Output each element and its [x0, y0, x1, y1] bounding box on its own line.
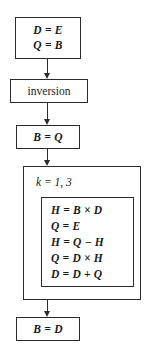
statement-line: B = D — [33, 322, 62, 337]
statement-line: H = Q − H — [51, 234, 104, 250]
statement-line: H = B × D — [51, 202, 102, 218]
loop-body-statements: H = B × D Q = E H = Q − H Q = D × H D = … — [51, 202, 104, 282]
statement-line: B = Q — [33, 130, 62, 145]
process-label: inversion — [28, 84, 71, 98]
statement-line: Q = B — [33, 38, 62, 53]
statement-line: D = E — [33, 23, 62, 38]
statement-line: Q = D × H — [51, 250, 103, 266]
statement-line: D = D + Q — [51, 266, 102, 282]
connector-init-to-inversion — [47, 59, 48, 73]
connector-inversion-to-bq — [47, 103, 48, 119]
flowchart-canvas: D = E Q = B inversion B = Q k = 1, 3 H =… — [0, 0, 150, 356]
flowchart-node-bq: B = Q — [16, 125, 80, 149]
flowchart-node-final: B = D — [16, 317, 80, 341]
flowchart-node-inversion: inversion — [10, 79, 88, 103]
flowchart-node-init: D = E Q = B — [15, 17, 81, 59]
loop-header-label: k = 1, 3 — [36, 175, 72, 189]
connector-bq-to-loop — [47, 149, 48, 160]
statement-line: Q = E — [51, 218, 80, 234]
connector-loop-to-final — [47, 300, 48, 311]
flowchart-node-loop: k = 1, 3 H = B × D Q = E H = Q − H Q = D… — [23, 166, 141, 300]
flowchart-node-loop-body: H = B × D Q = E H = Q − H Q = D × H D = … — [41, 197, 134, 287]
